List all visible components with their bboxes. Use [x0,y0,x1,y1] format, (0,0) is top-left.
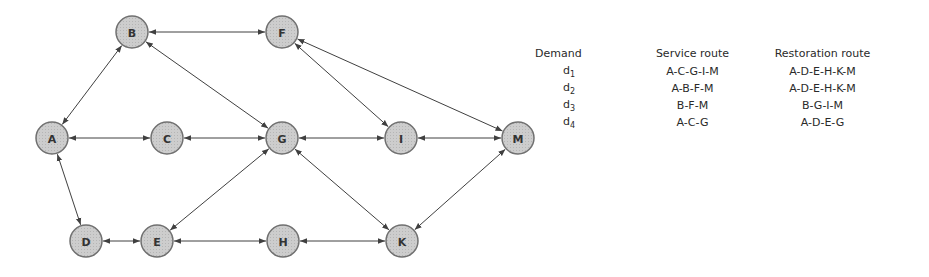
demand-cell: d3 [530,98,630,113]
restoration-route-cell: B-G-I-M [755,99,890,112]
header-restoration-route: Restoration route [755,47,890,60]
edge-G-K [295,149,389,230]
edge-A-D [57,154,80,225]
node-label: B [128,27,136,40]
node-label: M [513,133,524,146]
demand-cell: d2 [530,81,630,96]
node-H: H [267,225,299,257]
node-label: I [399,133,403,146]
edge-A-B [62,46,122,125]
node-label: H [278,236,287,249]
restoration-route-cell: A-D-E-H-K-M [755,65,890,78]
demand-cell: d1 [530,64,630,79]
service-route-cell: A-C-G [630,116,755,129]
table-row: d4 A-C-G A-D-E-G [530,114,890,131]
restoration-route-cell: A-D-E-H-K-M [755,82,890,95]
demand-cell: d4 [530,115,630,130]
node-label: G [277,133,286,146]
nodes: ABCDEFGHIKM [36,16,534,257]
node-label: C [163,133,171,146]
node-label: E [153,236,161,249]
edge-E-G [170,149,269,230]
node-label: K [398,236,407,249]
node-B: B [116,16,148,48]
edge-F-I [295,43,389,126]
table-row: d3 B-F-M B-G-I-M [530,97,890,114]
node-label: F [278,27,286,40]
service-route-cell: B-F-M [630,99,755,112]
service-route-cell: A-B-F-M [630,82,755,95]
node-I: I [385,122,417,154]
edge-K-M [415,149,506,229]
header-service-route: Service route [630,47,755,60]
node-D: D [70,225,102,257]
table-row: d1 A-C-G-I-M A-D-E-H-K-M [530,63,890,80]
service-route-cell: A-C-G-I-M [630,65,755,78]
node-G: G [266,122,298,154]
table-row: d2 A-B-F-M A-D-E-H-K-M [530,80,890,97]
node-K: K [386,225,418,257]
network-graph: ABCDEFGHIKM [0,0,560,277]
routes-table: Demand Service route Restoration route d… [530,44,890,131]
table-header: Demand Service route Restoration route [530,44,890,63]
node-A: A [36,122,68,154]
node-label: D [81,236,90,249]
header-demand: Demand [530,47,630,60]
node-label: A [48,133,57,146]
edge-B-G [146,42,268,128]
restoration-route-cell: A-D-E-G [755,116,890,129]
node-F: F [266,16,298,48]
edge-F-M [298,39,503,131]
node-E: E [141,225,173,257]
node-C: C [151,122,183,154]
